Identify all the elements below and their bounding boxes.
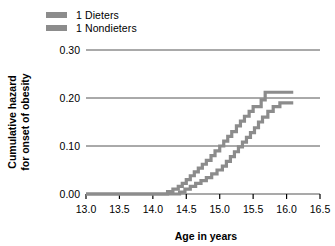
y-axis-tick-labels: 0.000.100.200.30 [60,44,81,200]
y-axis-title-line1: Cumulative hazard [6,75,18,168]
x-tick-label: 14.0 [143,203,164,215]
x-tick-label: 16.5 [310,203,331,215]
x-tick-label: 16.0 [276,203,297,215]
gridlines [86,50,320,194]
y-tick-label: 0.00 [60,188,81,200]
y-tick-label: 0.10 [60,140,81,152]
x-tick-label: 15.0 [209,203,230,215]
x-tick-label: 13.5 [109,203,130,215]
x-tick-label: 14.5 [176,203,197,215]
cumulative-hazard-chart: 1 Dieters 1 Nondieters 0.000.100.200.30 … [0,0,335,246]
x-axis-title: Age in years [175,230,238,242]
x-axis-tick-labels: 13.013.514.014.515.015.516.016.5 [76,203,331,215]
series-lines [86,92,293,194]
y-tick-label: 0.30 [60,44,81,56]
series-line [86,92,293,194]
x-tick-label: 15.5 [243,203,264,215]
x-tick-label: 13.0 [76,203,97,215]
y-tick-label: 0.20 [60,92,81,104]
plot-area: 0.000.100.200.30 13.013.514.014.515.015.… [0,0,335,246]
y-axis-title-line2: for onset of obesity [19,73,31,171]
